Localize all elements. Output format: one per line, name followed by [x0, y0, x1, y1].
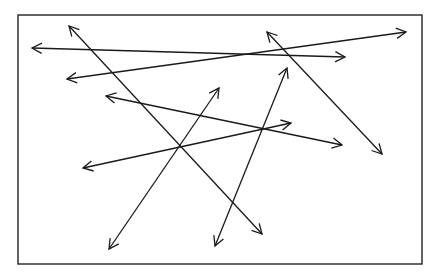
arrow-diagram [0, 0, 439, 279]
background [0, 0, 439, 279]
